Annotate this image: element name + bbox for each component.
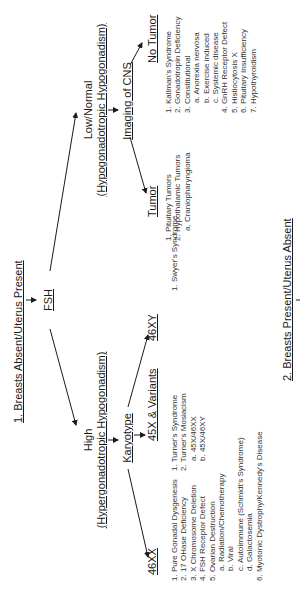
high-label: High xyxy=(82,429,95,452)
list-item: 6. Myotonic Dystrophy/Kennedy's Disease xyxy=(255,431,264,581)
list-item: 2. Gonadotropin Deficiency xyxy=(173,17,182,114)
list-item: c. Autoimmune (Schmidt's Syndrome) xyxy=(236,431,245,581)
list-item: 6. Pituitary Insufficiency xyxy=(239,17,248,114)
list-item: 3. Constitutional xyxy=(183,17,192,114)
karyotype-46xx-label: 46XX xyxy=(146,548,159,575)
list-item: a. 45X/46XX xyxy=(189,393,198,471)
list-item: 1. Kallman's Syndrome xyxy=(164,17,173,114)
karyotype-45x-list: 1. Turner's Syndrome 2. Turner's Mosiaci… xyxy=(170,393,208,471)
no-tumor-label: No Tumor xyxy=(146,15,159,63)
list-item: b. Viral xyxy=(226,431,235,581)
list-item: 1. Swyer's Syndrome xyxy=(170,216,179,291)
flowchart-canvas: 1. Breasts Absent/Uterus Present FSH Low… xyxy=(0,0,300,593)
list-item: b. 45X/46XY xyxy=(198,393,207,471)
hypergonadotropic-label: (Hypergonadotropic Hypogonadism) xyxy=(95,352,108,529)
hypogonadotropic-label: (Hypogonadotropic Hypogonadism) xyxy=(95,23,108,196)
list-item: a. Radiation/Chemotherapy xyxy=(217,431,226,581)
low-normal-label: Low/Normal xyxy=(82,81,95,140)
imaging-cns-label: Imaging of CNS xyxy=(121,62,134,140)
branch2-title: 2. Breasts Present/Uterus Absent xyxy=(281,218,294,381)
list-item: b. Exercise induced xyxy=(202,17,211,114)
list-item: 1. Turner's Syndrome xyxy=(170,393,179,471)
karyotype-label: Karyotype xyxy=(121,413,134,463)
list-item: c. Systemic disease xyxy=(211,17,220,114)
no-tumor-list: 1. Kallman's Syndrome 2. Gonadotropin De… xyxy=(164,17,258,114)
list-item: 4. GnRH Receptor Defect xyxy=(220,17,229,114)
karyotype-46xy-list: 1. Swyer's Syndrome xyxy=(170,216,179,291)
list-item: 5. Histiocytosis X xyxy=(230,17,239,114)
karyotype-46xy-label: 46XY xyxy=(146,314,159,341)
list-item: 7. Hypothyroidism xyxy=(249,17,258,114)
branch1-title: 1. Breasts Absent/Uterus Present xyxy=(12,260,25,423)
list-item: d. Galactosemia xyxy=(245,431,254,581)
karyotype-45x-label: 45X & Variants xyxy=(146,368,159,441)
fsh-test-label: FSH xyxy=(42,289,55,311)
list-item: a. Craniopharyngioma xyxy=(183,152,192,241)
tumor-label: Tumor xyxy=(146,186,159,217)
list-item: 5. Ovarian Destruction xyxy=(208,431,217,581)
list-item: a. Anorexia nervosa xyxy=(192,17,201,114)
list-item: 2. Turner's Mosiacism xyxy=(179,393,188,471)
